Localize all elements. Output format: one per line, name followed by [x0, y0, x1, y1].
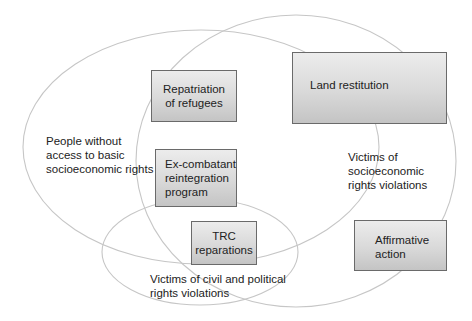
affirmative-line-1: Affirmative [375, 233, 446, 247]
ex-combatant-line-1: Ex-combatant [165, 157, 236, 171]
set-no-access-label: People without access to basic socioecon… [46, 134, 153, 176]
land-restitution-line-1: Land restitution [310, 78, 389, 92]
no-access-line-1: People without [46, 134, 153, 148]
ex-combatant-line-2: reintegration [165, 171, 236, 185]
no-access-line-2: access to basic [46, 148, 153, 162]
socioeconomic-line-3: rights violations [348, 178, 427, 192]
set-socioeconomic-victims-label: Victims of socioeconomic rights violatio… [348, 150, 427, 192]
trc-line-1: TRC [195, 229, 253, 243]
land-restitution-box: Land restitution [292, 52, 447, 124]
trc-line-2: reparations [195, 243, 253, 257]
affirmative-action-box: Affirmative action [354, 220, 447, 271]
ex-combatant-line-3: program [165, 185, 236, 199]
socioeconomic-line-2: socioeconomic [348, 164, 427, 178]
trc-reparations-box: TRC reparations [191, 221, 257, 265]
affirmative-line-2: action [375, 247, 446, 261]
repatriation-box: Repatriation of refugees [151, 70, 237, 122]
ex-combatant-box: Ex-combatant reintegration program [155, 149, 237, 207]
repatriation-line-2: of refugees [163, 96, 225, 110]
set-civil-political-victims-label: Victims of civil and political rights vi… [150, 272, 286, 300]
socioeconomic-line-1: Victims of [348, 150, 427, 164]
no-access-line-3: socioeconomic rights [46, 162, 153, 176]
civil-political-line-2: rights violations [150, 286, 286, 300]
civil-political-line-1: Victims of civil and political [150, 272, 286, 286]
repatriation-line-1: Repatriation [163, 82, 225, 96]
